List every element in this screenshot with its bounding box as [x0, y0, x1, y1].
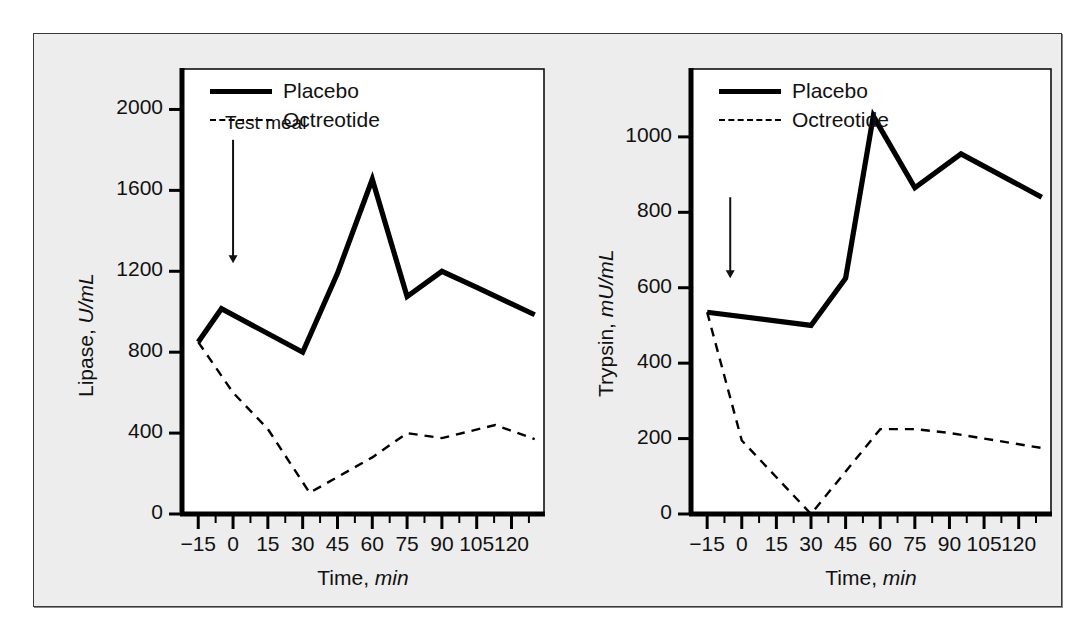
- lipase-x-axis-title: Time, min: [142, 566, 584, 590]
- y-tick-label: 800: [128, 338, 163, 362]
- legend-label-placebo: Placebo: [792, 80, 868, 101]
- legend-label-placebo: Placebo: [283, 80, 359, 101]
- test-meal-annotation: Test meal: [225, 112, 306, 134]
- x-title-text: Time, min: [825, 566, 916, 589]
- legend-row-placebo: Placebo: [210, 76, 380, 105]
- chart-panel-trypsin: Trypsin, mU/mL Time, min Placebo Octreot…: [554, 34, 1063, 606]
- y-tick-label: 1000: [625, 123, 672, 147]
- y-title-unit: mU/mL: [594, 249, 617, 317]
- x-tick-label: 120: [989, 532, 1049, 556]
- y-tick-label: 800: [637, 198, 672, 222]
- x-tick-label: 120: [482, 532, 542, 556]
- y-tick-label: 400: [637, 349, 672, 373]
- y-title-text: Trypsin, mU/mL: [594, 249, 617, 396]
- x-title-unit: min: [883, 566, 917, 589]
- trypsin-legend: Placebo Octreotide: [719, 76, 889, 134]
- y-tick-label: 600: [637, 274, 672, 298]
- y-tick-label: 400: [128, 419, 163, 443]
- legend-key-dashed-icon: [719, 111, 781, 129]
- x-title-unit: min: [375, 566, 409, 589]
- y-tick-label: 0: [151, 500, 163, 524]
- figure-frame: Lipase, U/mL Time, min Placebo Octreotid…: [33, 33, 1062, 607]
- y-title-unit: U/mL: [74, 273, 97, 323]
- y-tick-label: 1600: [116, 176, 163, 200]
- legend-row-placebo: Placebo: [719, 76, 889, 105]
- chart-panel-lipase: Lipase, U/mL Time, min Placebo Octreotid…: [34, 34, 554, 606]
- legend-key-solid-icon: [719, 82, 781, 100]
- trypsin-x-axis-title: Time, min: [651, 566, 1088, 590]
- y-title-text: Lipase, U/mL: [74, 273, 97, 397]
- legend-label-octreotide: Octreotide: [792, 109, 889, 130]
- lipase-y-axis-title: Lipase, U/mL: [74, 273, 98, 397]
- y-tick-label: 1200: [116, 257, 163, 281]
- y-tick-label: 0: [660, 500, 672, 524]
- legend-row-octreotide: Octreotide: [719, 105, 889, 134]
- trypsin-y-axis-title: Trypsin, mU/mL: [594, 249, 618, 396]
- y-tick-label: 200: [637, 425, 672, 449]
- legend-key-solid-icon: [210, 82, 272, 100]
- y-tick-label: 2000: [116, 95, 163, 119]
- figure-root: Lipase, U/mL Time, min Placebo Octreotid…: [0, 0, 1088, 643]
- x-title-text: Time, min: [317, 566, 408, 589]
